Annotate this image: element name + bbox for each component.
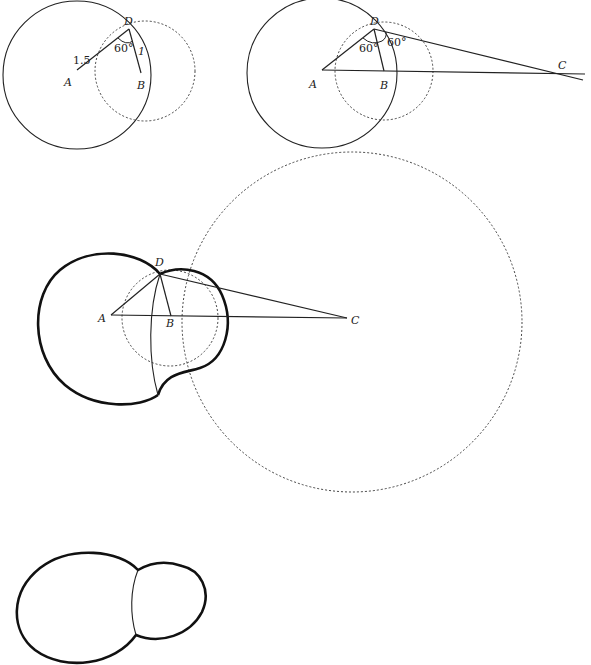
label-point-b: B xyxy=(165,317,174,330)
label-point-a: A xyxy=(63,76,72,89)
label-point-b: B xyxy=(136,79,145,92)
panel-3: D A B C xyxy=(38,152,522,492)
inner-arc xyxy=(151,274,160,395)
label-angle-adb: 60° xyxy=(114,42,134,55)
bold-outline-big-lobe xyxy=(38,253,160,404)
panel-4 xyxy=(17,553,206,663)
bold-outline-small-lobe xyxy=(158,269,228,395)
label-point-a: A xyxy=(97,312,106,325)
segment-db xyxy=(160,274,171,316)
label-length-ad: 1.5 xyxy=(73,54,91,67)
label-point-c: C xyxy=(558,59,567,72)
label-angle-bdc: 60° xyxy=(387,36,407,49)
label-point-b: B xyxy=(379,79,388,92)
dividing-arc xyxy=(132,570,138,635)
dotted-circle-b xyxy=(95,21,195,121)
geometry-diagram: D A B 1.5 60° 1 D A B C 60° 60° D A xyxy=(0,0,591,665)
label-angle-adb: 60° xyxy=(359,42,379,55)
label-point-d: D xyxy=(123,15,133,28)
bold-outline-final-shape xyxy=(17,553,206,663)
label-point-d: D xyxy=(369,15,379,28)
panel-1: D A B 1.5 60° 1 xyxy=(3,1,195,149)
label-length-db: 1 xyxy=(138,45,145,58)
label-point-d: D xyxy=(154,256,164,269)
panel-2: D A B C 60° 60° xyxy=(247,0,585,148)
segment-dc xyxy=(160,274,347,318)
label-point-c: C xyxy=(351,314,360,327)
label-point-a: A xyxy=(308,78,317,91)
